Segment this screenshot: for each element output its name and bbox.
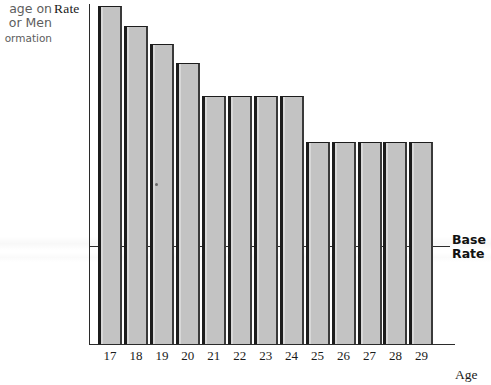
bar-age-20	[176, 63, 200, 344]
bar-age-29	[409, 142, 433, 344]
x-tick-label-25: 25	[305, 348, 331, 364]
x-tick-label-19: 19	[149, 348, 175, 364]
x-tick-label-22: 22	[227, 348, 253, 364]
x-tick-label-29: 29	[408, 348, 434, 364]
bar-age-24	[280, 96, 304, 344]
bar-age-25	[306, 142, 330, 344]
scan-speck	[155, 183, 158, 186]
bar-age-21	[202, 96, 226, 344]
x-tick-label-17: 17	[97, 348, 123, 364]
bar-age-22	[228, 96, 252, 344]
bar-age-19	[150, 44, 174, 344]
bar-age-23	[254, 96, 278, 344]
x-tick-label-20: 20	[175, 348, 201, 364]
x-tick-label-21: 21	[201, 348, 227, 364]
bar-series: 17181920212223242526272829	[0, 0, 491, 385]
chart-figure: age on or Men ormation Rate Age Base Rat…	[0, 0, 491, 385]
x-tick-label-24: 24	[279, 348, 305, 364]
x-tick-label-18: 18	[123, 348, 149, 364]
bar-age-17	[98, 6, 122, 344]
x-tick-label-27: 27	[357, 348, 383, 364]
x-tick-label-23: 23	[253, 348, 279, 364]
bar-age-28	[383, 142, 407, 344]
x-tick-label-28: 28	[382, 348, 408, 364]
x-tick-label-26: 26	[331, 348, 357, 364]
bar-age-26	[332, 142, 356, 344]
bar-age-27	[358, 142, 382, 344]
bar-age-18	[124, 26, 148, 344]
